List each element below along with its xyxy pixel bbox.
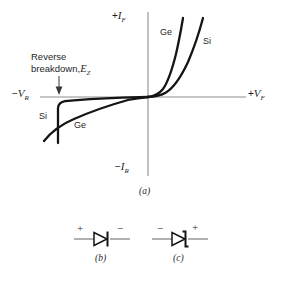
symbol-c-right-sign: + <box>192 221 198 234</box>
caption-b: (b) <box>95 253 106 264</box>
axis-label-reverse-voltage: −VR <box>12 87 29 102</box>
anode-triangle-b <box>94 233 107 246</box>
anode-triangle-c <box>172 233 185 246</box>
axis-label-forward-voltage: +VF <box>248 87 265 102</box>
axis-label-reverse-current: −IR <box>115 160 129 175</box>
breakdown-arrow <box>56 76 63 95</box>
curve-label-forward-si: Si <box>203 36 211 46</box>
symbol-b-left-sign: + <box>77 222 83 235</box>
arrow-head-icon <box>56 87 63 96</box>
curve-label-reverse-ge: Ge <box>74 120 86 130</box>
figure-canvas <box>0 0 283 281</box>
curve-label-forward-ge: Ge <box>160 27 172 37</box>
caption-c: (c) <box>173 253 184 264</box>
axis-label-forward-current: +IF <box>112 9 126 24</box>
axes-group <box>40 12 246 176</box>
caption-a: (a) <box>139 186 150 197</box>
symbol-b-right-sign: − <box>117 222 123 235</box>
diode-characteristic-figure: +IF −IR +VF −VR Reverse breakdown,EZ Ge … <box>0 0 283 281</box>
curve-label-reverse-si: Si <box>39 111 47 121</box>
reverse-breakdown-annotation: Reverse breakdown,EZ <box>31 52 90 77</box>
symbol-c-left-sign: − <box>157 222 163 235</box>
